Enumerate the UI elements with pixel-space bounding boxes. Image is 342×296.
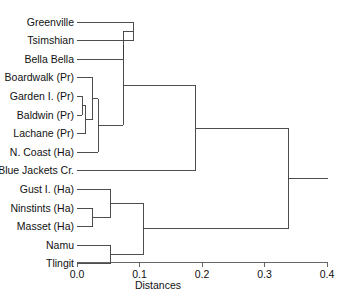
leaf-label: Blue Jackets Cr. bbox=[0, 164, 74, 176]
branch-m11 bbox=[111, 203, 144, 254]
dendrogram-branches bbox=[77, 22, 328, 264]
branch-m2 bbox=[77, 106, 86, 134]
leaf-label: Tsimshian bbox=[27, 34, 74, 46]
x-axis: 0.00.10.20.30.4 bbox=[70, 262, 335, 280]
x-axis-tick-label: 0.2 bbox=[195, 268, 210, 280]
leaf-label: Baldwin (Pr) bbox=[17, 109, 74, 121]
branch-m12 bbox=[77, 85, 196, 170]
branch-m3 bbox=[77, 78, 93, 120]
branch-m6 bbox=[77, 31, 133, 59]
leaf-label: Boardwalk (Pr) bbox=[5, 71, 74, 83]
leaf-label: Ninstints (Ha) bbox=[10, 202, 74, 214]
branch-m7 bbox=[98, 45, 123, 125]
leaf-label: Bella Bella bbox=[24, 53, 74, 65]
branch-m10 bbox=[77, 245, 111, 264]
leaf-label: Gust I. (Ha) bbox=[20, 183, 74, 195]
x-axis-tick-label: 0.3 bbox=[257, 268, 272, 280]
x-axis-title: Distances bbox=[135, 279, 181, 291]
leaf-label: Namu bbox=[46, 239, 74, 251]
leaf-label: Greenville bbox=[27, 16, 74, 28]
leaf-label: Garden I. (Pr) bbox=[10, 90, 74, 102]
branch-m13 bbox=[143, 128, 288, 229]
dendrogram-plot-area: GreenvilleTsimshianBella BellaBoardwalk … bbox=[0, 0, 342, 296]
leaf-label: N. Coast (Ha) bbox=[10, 146, 74, 158]
leaf-labels: GreenvilleTsimshianBella BellaBoardwalk … bbox=[0, 16, 74, 270]
dendrogram-chart: GreenvilleTsimshianBella BellaBoardwalk … bbox=[0, 0, 342, 296]
leaf-label: Masset (Ha) bbox=[17, 220, 74, 232]
branch-m9 bbox=[77, 189, 111, 217]
x-axis-tick-label: 0.0 bbox=[70, 268, 85, 280]
x-axis-tick-label: 0.4 bbox=[320, 268, 335, 280]
branch-m4 bbox=[77, 99, 98, 152]
leaf-label: Lachane (Pr) bbox=[13, 127, 74, 139]
branch-m1 bbox=[77, 96, 82, 115]
branch-m8 bbox=[77, 208, 93, 227]
